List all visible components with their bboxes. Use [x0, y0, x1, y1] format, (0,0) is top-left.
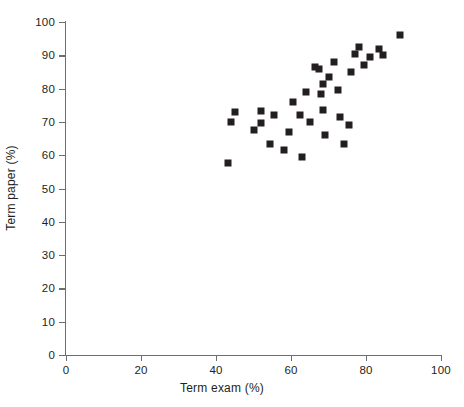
- data-point: [396, 32, 403, 39]
- data-point: [319, 80, 326, 87]
- y-tick-label-50: 50: [42, 183, 55, 195]
- data-point: [280, 146, 287, 153]
- x-tick-label-80: 80: [359, 364, 372, 376]
- x-tick-label-0: 0: [63, 364, 70, 376]
- data-point: [297, 112, 304, 119]
- y-tick-label-40: 40: [42, 216, 55, 228]
- y-tick-50: [59, 189, 65, 190]
- data-point: [366, 54, 373, 61]
- y-tick-label-0: 0: [48, 349, 55, 361]
- data-point: [355, 44, 362, 51]
- x-tick-40: [216, 355, 217, 361]
- data-point: [348, 68, 355, 75]
- data-point: [271, 112, 278, 119]
- y-tick-label-30: 30: [42, 249, 55, 261]
- y-tick-label-80: 80: [42, 83, 55, 95]
- y-tick-90: [59, 55, 65, 56]
- plot-area: [66, 22, 441, 355]
- x-tick-20: [141, 355, 142, 361]
- y-tick-80: [59, 89, 65, 90]
- y-tick-0: [59, 355, 65, 356]
- x-tick-label-40: 40: [209, 364, 222, 376]
- data-point: [321, 132, 328, 139]
- data-point: [316, 65, 323, 72]
- y-tick-70: [59, 122, 65, 123]
- x-tick-0: [66, 355, 67, 361]
- data-point: [318, 90, 325, 97]
- x-tick-80: [366, 355, 367, 361]
- x-tick-label-60: 60: [284, 364, 297, 376]
- data-point: [289, 98, 296, 105]
- y-tick-20: [59, 288, 65, 289]
- data-point: [340, 140, 347, 147]
- data-point: [258, 108, 265, 115]
- y-tick-label-20: 20: [42, 282, 55, 294]
- data-point: [258, 119, 265, 126]
- x-tick-100: [441, 355, 442, 361]
- y-tick-label-10: 10: [42, 316, 55, 328]
- data-point: [346, 122, 353, 129]
- data-point: [225, 159, 232, 166]
- y-axis-title: Term paper (%): [4, 145, 18, 231]
- data-point: [286, 128, 293, 135]
- data-point: [331, 59, 338, 66]
- data-point: [334, 87, 341, 94]
- y-tick-label-70: 70: [42, 116, 55, 128]
- data-point: [361, 62, 368, 69]
- y-tick-100: [59, 22, 65, 23]
- data-point: [231, 108, 238, 115]
- x-tick-label-100: 100: [431, 364, 451, 376]
- y-tick-label-90: 90: [42, 49, 55, 61]
- x-axis-title-text: Term exam (%): [180, 381, 264, 395]
- data-point: [319, 107, 326, 114]
- data-point: [379, 52, 386, 59]
- data-point: [325, 73, 332, 80]
- data-point: [228, 118, 235, 125]
- data-point: [336, 113, 343, 120]
- y-tick-60: [59, 155, 65, 156]
- x-axis-title: Term exam (%): [0, 381, 464, 395]
- x-tick-60: [291, 355, 292, 361]
- data-point: [267, 140, 274, 147]
- y-tick-30: [59, 255, 65, 256]
- scatter-plot-figure: 0102030405060708090100 020406080100 Term…: [0, 0, 464, 407]
- data-point: [250, 127, 257, 134]
- data-point: [306, 118, 313, 125]
- y-tick-label-60: 60: [42, 149, 55, 161]
- data-point: [303, 88, 310, 95]
- data-point: [299, 153, 306, 160]
- x-tick-label-20: 20: [134, 364, 147, 376]
- y-tick-10: [59, 322, 65, 323]
- y-tick-40: [59, 222, 65, 223]
- data-point: [351, 50, 358, 57]
- y-tick-label-100: 100: [35, 16, 55, 28]
